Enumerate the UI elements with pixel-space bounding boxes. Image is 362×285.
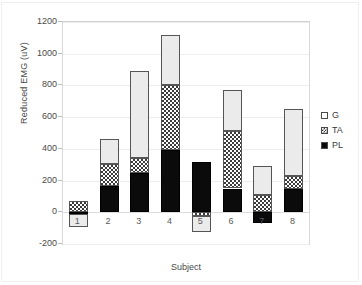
bar-segment-g bbox=[223, 90, 242, 131]
bar-slot bbox=[186, 22, 217, 244]
stacked-bar bbox=[69, 22, 88, 244]
legend-item-pl: PL bbox=[321, 138, 343, 153]
bar-segment-pl bbox=[161, 150, 180, 212]
stacked-bar bbox=[223, 22, 242, 244]
x-axis-title: Subject bbox=[62, 262, 310, 272]
legend-label-g: G bbox=[332, 111, 339, 120]
stacked-bar bbox=[100, 22, 119, 244]
bar-slot bbox=[63, 22, 94, 244]
legend-label-ta: TA bbox=[332, 126, 343, 135]
x-tick-label: 4 bbox=[167, 216, 172, 226]
y-tick-mark bbox=[58, 243, 62, 244]
bar-slot bbox=[278, 22, 309, 244]
y-tick-mark bbox=[58, 211, 62, 212]
x-tick-label: 8 bbox=[290, 216, 295, 226]
stacked-bar bbox=[284, 22, 303, 244]
bar-segment-ta bbox=[284, 176, 303, 189]
legend-item-g: G bbox=[321, 108, 343, 123]
bar-segment-g bbox=[161, 35, 180, 86]
y-tick-label: 1000 bbox=[17, 48, 57, 58]
gridline bbox=[63, 244, 309, 245]
bar-segment-ta bbox=[223, 131, 242, 188]
x-tick-label: 5 bbox=[198, 216, 203, 226]
x-tick-label: 3 bbox=[136, 216, 141, 226]
bar-slot bbox=[217, 22, 248, 244]
bar-segment-pl bbox=[130, 173, 149, 212]
bar-segment-g bbox=[100, 139, 119, 164]
bar-segment-ta bbox=[69, 201, 88, 212]
stacked-bar bbox=[192, 22, 211, 244]
y-tick-mark bbox=[58, 53, 62, 54]
bar-segment-pl bbox=[100, 186, 119, 212]
y-tick-mark bbox=[58, 116, 62, 117]
legend-swatch-ta-icon bbox=[321, 127, 328, 134]
legend-swatch-pl-icon bbox=[321, 142, 328, 149]
stacked-bar bbox=[253, 22, 272, 244]
bar-segment-ta bbox=[100, 164, 119, 186]
x-tick-label: 7 bbox=[259, 216, 264, 226]
legend-label-pl: PL bbox=[332, 141, 343, 150]
y-tick-label: 800 bbox=[17, 79, 57, 89]
bar-slot bbox=[155, 22, 186, 244]
bar-segment-pl bbox=[192, 162, 211, 212]
bar-segment-g bbox=[130, 71, 149, 157]
bar-group bbox=[63, 22, 309, 244]
y-tick-mark bbox=[58, 21, 62, 22]
y-tick-label: 400 bbox=[17, 143, 57, 153]
y-tick-label: 0 bbox=[17, 206, 57, 216]
y-tick-mark bbox=[58, 84, 62, 85]
plot-area bbox=[62, 21, 310, 245]
x-tick-label: 2 bbox=[106, 216, 111, 226]
bar-segment-pl bbox=[284, 189, 303, 212]
figure-container: Reduced EMG (uV) -2000200400600800100012… bbox=[0, 0, 362, 285]
y-tick-label: 200 bbox=[17, 175, 57, 185]
y-tick-label: 1200 bbox=[17, 16, 57, 26]
y-tick-mark bbox=[58, 148, 62, 149]
bar-slot bbox=[125, 22, 156, 244]
bar-segment-pl bbox=[223, 189, 242, 213]
bar-slot bbox=[94, 22, 125, 244]
stacked-bar bbox=[161, 22, 180, 244]
legend-item-ta: TA bbox=[321, 123, 343, 138]
x-tick-label: 1 bbox=[75, 216, 80, 226]
y-tick-label: -200 bbox=[17, 238, 57, 248]
y-tick-mark bbox=[58, 180, 62, 181]
bar-slot bbox=[248, 22, 279, 244]
legend: G TA PL bbox=[321, 108, 343, 153]
bar-segment-ta bbox=[130, 158, 149, 174]
bar-segment-ta bbox=[161, 85, 180, 150]
y-tick-label: 600 bbox=[17, 111, 57, 121]
x-tick-label: 6 bbox=[229, 216, 234, 226]
bar-segment-ta bbox=[253, 195, 272, 212]
bar-segment-g bbox=[253, 166, 272, 195]
stacked-bar bbox=[130, 22, 149, 244]
bar-segment-g bbox=[284, 109, 303, 176]
legend-swatch-g-icon bbox=[321, 112, 328, 119]
